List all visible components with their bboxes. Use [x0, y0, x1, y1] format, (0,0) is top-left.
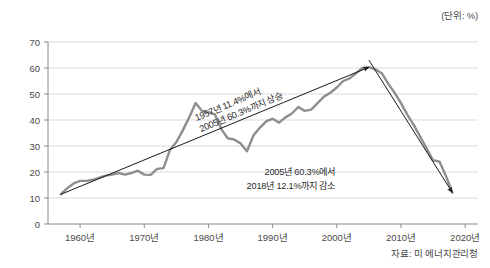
falling-trend-arrow [369, 60, 452, 192]
x-tick-labels: 1960년1970년1980년1990년2000년2010년2020년 [65, 232, 480, 243]
y-tick-label: 60 [29, 63, 40, 74]
falling-annotation-line2: 2018년 12.1%까지 감소 [247, 180, 336, 191]
x-tick-label: 2000년 [322, 232, 352, 243]
data-series-group [61, 67, 452, 194]
y-tick-labels: 010203040506070 [29, 37, 40, 230]
y-tick-label: 50 [29, 89, 40, 100]
x-tick-label: 1990년 [258, 232, 288, 243]
y-tick-label: 70 [29, 37, 40, 48]
line-chart: 010203040506070 1960년1970년1980년1990년2000… [0, 0, 490, 268]
series-line [61, 67, 452, 194]
x-tick-label: 2020년 [450, 232, 480, 243]
x-tick-label: 1980년 [193, 232, 223, 243]
x-tick-label: 1960년 [65, 232, 95, 243]
y-tick-label: 20 [29, 167, 40, 178]
y-tick-label: 0 [35, 219, 40, 230]
chart-figure: (단위: %) 010203040506070 1960년1970년1980년1… [0, 0, 490, 268]
source-label: 자료: 미 에너지관리청 [391, 246, 478, 260]
axis-lines [48, 42, 478, 224]
falling-trend-annotation: 2005년 60.3%에서 2018년 12.1%까지 감소 [247, 167, 336, 191]
x-tick-label: 2010년 [386, 232, 416, 243]
y-tick-label: 10 [29, 193, 40, 204]
y-tick-label: 40 [29, 115, 40, 126]
x-tick-label: 1970년 [129, 232, 159, 243]
y-tick-label: 30 [29, 141, 40, 152]
falling-annotation-line1: 2005년 60.3%에서 [265, 167, 336, 177]
rising-trend-annotation: 1957년 11.4%에서 2005년 60.3%까지 상승 [193, 80, 283, 134]
